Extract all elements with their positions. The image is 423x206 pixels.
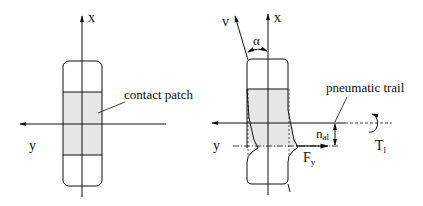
left-contact-patch-label: contact patch [124,87,193,102]
right-v-label: v [222,14,229,29]
right-callout-line [335,97,347,122]
left-x-label: x [88,10,95,25]
left-tire-diagram: x y contact patch [20,10,193,197]
slip-angle-arc [248,49,267,52]
right-x-label: x [274,10,281,25]
tire-slip-diagram: x y contact patch [0,0,423,206]
slip-angle-label: α [253,33,260,48]
right-velocity-vector [235,16,248,60]
pneumatic-trail-label: pneumatic trail [326,80,405,95]
left-y-label: y [29,138,36,153]
right-tire-diagram: x v α y pneumatic trail nal Fy Tl [212,10,405,195]
right-y-label: y [213,138,220,153]
torque-label: Tl [375,138,387,155]
force-label: Fy [303,150,316,167]
right-tire-outline-lower [247,147,298,184]
trail-label: nal [316,126,329,142]
